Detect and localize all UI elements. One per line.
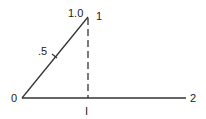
hypotenuse-line [22, 17, 88, 98]
top-point-label: 1 [96, 11, 102, 22]
foot-label: I [85, 106, 88, 117]
diagram-canvas [0, 0, 206, 119]
mid-value-label: .5 [38, 46, 47, 57]
right-end-label: 2 [190, 93, 196, 104]
top-value-label: 1.0 [68, 8, 83, 19]
origin-label: 0 [11, 93, 17, 104]
